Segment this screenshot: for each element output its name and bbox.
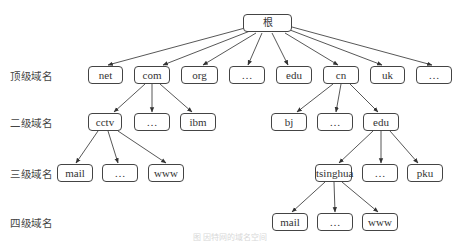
node-tsinghua: tsinghua [315,164,352,182]
node-ellipsis-com: … [134,113,170,131]
node-ellipsis-edu: … [362,164,398,182]
node-edu: edu [276,66,312,84]
node-tsinghua-www: www [362,213,398,231]
level-label-top: 顶级域名 [10,68,52,83]
node-tsinghua-mail: mail [272,213,308,231]
node-ellipsis-cn: … [317,113,353,131]
node-cctv-www: www [148,164,184,182]
node-cn: cn [323,66,359,84]
level-label-third: 三级域名 [10,166,52,181]
level-label-fourth: 四级域名 [10,215,52,230]
node-cctv-mail: mail [57,164,93,182]
node-cctv: cctv [88,113,122,131]
node-pku: pku [407,164,443,182]
node-net: net [88,66,123,84]
node-ellipsis-tsinghua: … [317,213,353,231]
node-ellipsis-top-1: … [229,66,265,84]
node-cn-edu: edu [363,113,399,131]
node-ellipsis-cctv: … [102,164,138,182]
level-label-second: 二级域名 [10,115,52,130]
figure-caption: 图 因特网的域名空间 [150,231,310,242]
node-ellipsis-top-2: … [416,66,452,84]
node-org: org [181,66,218,84]
node-com: com [134,66,170,84]
node-root: 根 [243,14,292,32]
node-bj: bj [271,113,307,131]
node-uk: uk [370,66,405,84]
node-ibm: ibm [180,113,216,131]
